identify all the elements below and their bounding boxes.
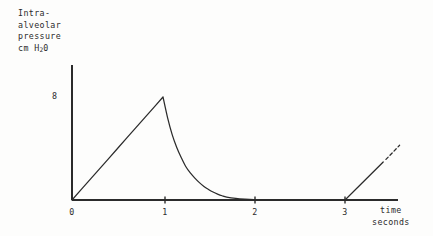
next-breath-onset-line — [345, 162, 383, 200]
figure-canvas: Intra- alveolar pressure cm H20 8 0 1 2 … — [0, 0, 433, 236]
data-curves — [72, 97, 400, 200]
plot-area — [0, 0, 433, 236]
next-breath-dashed-line — [386, 145, 400, 159]
pressure-curve — [72, 97, 345, 200]
axis-lines — [72, 65, 398, 200]
